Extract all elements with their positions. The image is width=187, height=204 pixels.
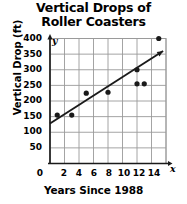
data-point <box>156 36 161 41</box>
chart-figure: Vertical Drops of Roller Coasters Vertic… <box>0 0 187 204</box>
data-point <box>84 91 89 96</box>
trend-line <box>50 51 163 124</box>
plot-area <box>0 0 187 204</box>
data-point <box>142 81 147 86</box>
data-point <box>134 81 139 86</box>
gridlines <box>50 39 166 164</box>
data-point <box>55 112 60 117</box>
data-point <box>134 67 139 72</box>
data-point <box>105 90 110 95</box>
data-point <box>69 112 74 117</box>
